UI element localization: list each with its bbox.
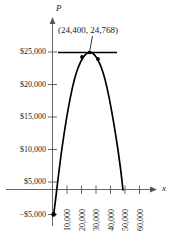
xtick-label-50000: 50,000 [122, 209, 130, 231]
xtick-label-30000: 30,000 [93, 209, 101, 231]
vertex-point [88, 51, 92, 55]
ytick-label-25000: $25,000 [4, 48, 46, 56]
chart-canvas [0, 0, 173, 243]
xtick-label-60000: 60,000 [137, 209, 145, 231]
ytick-label-negative-5000: −$5,000 [0, 211, 46, 219]
annotation-leader-line [90, 36, 93, 51]
ytick-label-20000: $20,000 [4, 81, 46, 89]
x-axis-name: x [162, 184, 166, 193]
xtick-label-40000: 40,000 [108, 209, 116, 231]
vertex-annotation-label: (24,400, 24,768) [58, 26, 118, 35]
xtick-label-20000: 20,000 [79, 209, 87, 231]
y-axis-name: P [56, 4, 62, 13]
ytick-label-5000: $5,000 [4, 178, 46, 186]
right-shoulder-point [96, 57, 100, 61]
profit-curve [54, 52, 123, 214]
ytick-label-15000: $15,000 [4, 113, 46, 121]
left-shoulder-point [80, 55, 84, 59]
ytick-label-10000: $10,000 [4, 146, 46, 154]
xtick-label-10000: 10,000 [64, 209, 72, 231]
y-axis [50, 17, 56, 226]
profit-parabola-figure: (24,400, 24,768) $25,000 $20,000 $15,000… [0, 0, 173, 243]
y-intercept-point [51, 212, 56, 217]
